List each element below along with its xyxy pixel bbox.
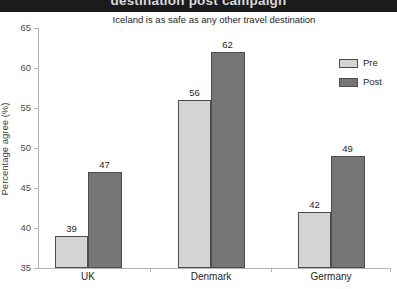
value-label-pre-uk: 39 (59, 223, 85, 234)
bar-pre-denmark (178, 100, 211, 268)
y-tick-label: 35 (7, 263, 31, 273)
value-label-pre-germany: 42 (302, 199, 328, 210)
banner-title: destination post campaign (0, 0, 397, 10)
x-axis-line (38, 268, 391, 269)
x-tick-mark (271, 269, 272, 272)
x-tick-mark (390, 269, 391, 272)
value-label-pre-denmark: 56 (182, 87, 208, 98)
y-tick-mark (34, 228, 38, 229)
y-tick-label: 60 (7, 63, 31, 73)
y-tick-mark (34, 108, 38, 109)
y-tick-mark (34, 188, 38, 189)
y-tick-label: 65 (7, 23, 31, 33)
slide: destination post campaign Iceland is as … (0, 0, 397, 289)
category-label-germany: Germany (291, 271, 371, 283)
legend-label-pre: Pre (363, 57, 378, 69)
y-tick-mark (34, 28, 38, 29)
bar-post-germany (331, 156, 365, 268)
y-axis-line (38, 28, 39, 269)
y-tick-label: 40 (7, 223, 31, 233)
category-label-uk: UK (48, 271, 128, 283)
bar-pre-germany (298, 212, 331, 268)
chart-title: Iceland is as safe as any other travel d… (38, 14, 390, 25)
legend-swatch-pre (339, 59, 358, 68)
y-tick-label: 55 (7, 103, 31, 113)
y-tick-mark (34, 68, 38, 69)
bar-post-uk (88, 172, 122, 268)
value-label-post-germany: 49 (335, 143, 361, 154)
category-label-denmark: Denmark (171, 271, 251, 283)
bar-pre-uk (55, 236, 88, 268)
x-tick-mark (150, 269, 151, 272)
bar-post-denmark (211, 52, 245, 268)
y-tick-mark (34, 148, 38, 149)
y-tick-label: 45 (7, 183, 31, 193)
y-tick-mark (34, 268, 38, 269)
title-banner: destination post campaign (0, 0, 397, 12)
legend-label-post: Post (363, 76, 382, 88)
value-label-post-uk: 47 (92, 159, 118, 170)
value-label-post-denmark: 62 (215, 39, 241, 50)
legend-swatch-post (339, 78, 358, 87)
y-tick-label: 50 (7, 143, 31, 153)
